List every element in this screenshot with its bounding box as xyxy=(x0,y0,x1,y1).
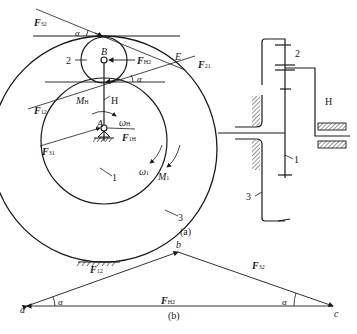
label-b-F32: F32 xyxy=(251,260,265,271)
caption-a: (a) xyxy=(180,226,191,238)
vector-F12 xyxy=(27,252,178,306)
label-FH2: FH2 xyxy=(136,55,151,66)
planetary-gear-force-diagram: F32 α B 2 FH2 E F21 α F12 MH H A ωH F1H … xyxy=(0,0,357,334)
point-A: A xyxy=(96,118,104,129)
omega-1: ω1 xyxy=(139,166,149,177)
label-carrier-H: H xyxy=(111,95,118,106)
side-label-gear-1: 1 xyxy=(294,154,299,165)
label-FH1: F1H xyxy=(121,132,137,143)
alpha-left: α xyxy=(58,297,63,307)
alpha-right: α xyxy=(282,297,287,307)
vertex-c: c xyxy=(334,308,339,319)
label-F21: F21 xyxy=(197,59,211,70)
vertex-a: a xyxy=(20,304,25,315)
alpha-top: α xyxy=(75,28,80,38)
label-F32: F32 xyxy=(33,17,47,28)
label-gear-2: 2 xyxy=(66,55,71,66)
vertex-b: b xyxy=(176,239,181,250)
point-B: B xyxy=(101,46,107,57)
side-label-carrier-H: H xyxy=(325,96,332,107)
label-gear-1: 1 xyxy=(112,172,117,183)
label-b-F12: F12 xyxy=(89,264,103,275)
pivot-B xyxy=(101,57,107,63)
point-E: E xyxy=(174,51,181,62)
label-F31: F31 xyxy=(41,146,55,157)
force-polygon xyxy=(27,252,333,306)
alpha-mid: α xyxy=(137,74,142,84)
side-label-gear-2: 2 xyxy=(295,48,300,59)
omega-H: ωH xyxy=(119,117,131,128)
side-view xyxy=(218,39,350,221)
side-label-ring-3: 3 xyxy=(246,191,251,202)
moment-MH: MH xyxy=(75,95,89,106)
moment-M1: M1 xyxy=(157,171,169,182)
label-ring-3: 3 xyxy=(178,212,183,223)
caption-b: (b) xyxy=(168,310,180,322)
label-b-FH2: FH2 xyxy=(160,295,175,306)
label-F12: F12 xyxy=(33,105,47,116)
